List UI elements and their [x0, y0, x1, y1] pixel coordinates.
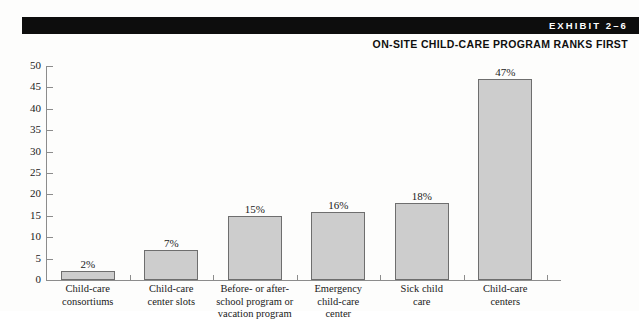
y-axis-tick-label: 0 — [0, 274, 41, 285]
bar — [311, 212, 365, 280]
y-axis-tick — [47, 109, 53, 110]
x-axis-tick — [380, 275, 381, 280]
x-axis-category-label-line: centers — [454, 296, 558, 309]
y-axis-tick-label-text: 35 — [19, 124, 41, 135]
bar-value-label: 18% — [381, 191, 463, 202]
y-axis-tick — [47, 237, 53, 238]
bar — [478, 79, 532, 280]
x-axis-tick — [130, 275, 131, 280]
x-axis-category-label-line: center — [287, 308, 391, 321]
x-axis-tick — [297, 275, 298, 280]
y-axis-tick-label-text: 10 — [19, 231, 41, 242]
bar-value-label: 7% — [130, 238, 212, 249]
y-axis-tick-label-text: 40 — [19, 103, 41, 114]
y-axis-tick-label: 15 — [0, 210, 41, 221]
y-axis-tick-label: 5 — [0, 253, 41, 264]
x-axis-tick — [46, 275, 47, 280]
y-axis-tick-label: 50 — [0, 60, 41, 71]
y-axis-tick — [47, 216, 53, 217]
y-axis-tick-label-text: 45 — [19, 81, 41, 92]
y-axis-tick — [47, 87, 53, 88]
y-axis-tick-label: 45 — [0, 81, 41, 92]
y-axis-tick — [47, 152, 53, 153]
y-axis-tick-label: 30 — [0, 146, 41, 157]
bar — [61, 271, 115, 280]
bar — [395, 203, 449, 280]
x-axis-tick — [547, 275, 548, 280]
y-axis-tick-label-text: 5 — [19, 253, 41, 264]
x-axis-category-label-line: Child-care — [454, 283, 558, 296]
y-axis-tick — [47, 280, 53, 281]
y-axis-tick — [47, 194, 53, 195]
bar — [144, 250, 198, 280]
y-axis-tick-label: 25 — [0, 167, 41, 178]
bar-value-label: 15% — [214, 204, 296, 215]
y-axis-tick-label-text: 50 — [19, 60, 41, 71]
y-axis-tick-label: 10 — [0, 231, 41, 242]
y-axis-tick-label-text: 25 — [19, 167, 41, 178]
bar-value-label: 2% — [47, 259, 129, 270]
bar-value-label: 47% — [464, 67, 546, 78]
y-axis-tick-label: 40 — [0, 103, 41, 114]
bar-value-label: 16% — [297, 200, 379, 211]
y-axis-tick-label: 35 — [0, 124, 41, 135]
y-axis-tick-label-text: 30 — [19, 146, 41, 157]
bar — [228, 216, 282, 280]
y-axis-tick — [47, 66, 53, 67]
y-axis-tick-label-text: 15 — [19, 210, 41, 221]
y-axis-tick — [47, 173, 53, 174]
y-axis-tick-label: 20 — [0, 188, 41, 199]
x-axis-tick — [464, 275, 465, 280]
y-axis-tick-label-text: 20 — [19, 188, 41, 199]
x-axis-tick — [213, 275, 214, 280]
x-axis-category-label: Child-carecenters — [454, 283, 558, 308]
x-axis-line — [46, 280, 561, 281]
y-axis-tick — [47, 130, 53, 131]
